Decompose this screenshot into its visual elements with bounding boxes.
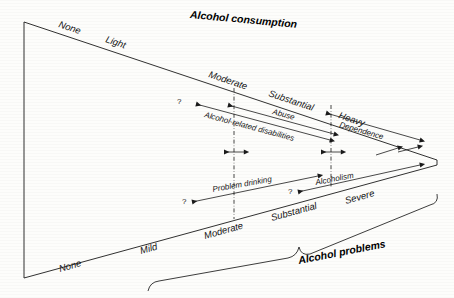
consumption-label-none: None (57, 18, 82, 36)
diagram-canvas: Alcohol consumption None Light Moderate … (0, 0, 454, 298)
problems-label-none: None (58, 257, 83, 274)
span-dependence: Dependence (326, 113, 420, 142)
uncertainty-mark-disabilities: ? (177, 97, 182, 106)
span-problem-drinking: Problem drinking ? (182, 175, 318, 206)
uncertainty-mark-alcoholism: ? (288, 187, 293, 196)
problems-label-mild: Mild (139, 240, 159, 255)
band-label-alcoholism: Alcoholism (314, 171, 355, 187)
divider-lines (234, 88, 331, 219)
problems-scale-labels: None Mild Moderate Substantial Severe (58, 187, 376, 274)
alcohol-wedge-diagram: Alcohol consumption None Light Moderate … (0, 0, 454, 298)
apex-arrow-upper (376, 148, 398, 155)
problems-label-substantial: Substantial (270, 200, 319, 223)
consumption-label-moderate: Moderate (207, 68, 249, 91)
band-label-abuse: Abuse (271, 107, 297, 122)
problems-label-severe: Severe (344, 187, 376, 206)
band-label-problem-drinking: Problem drinking (212, 175, 273, 194)
span-alcoholism: Alcoholism ? (288, 165, 420, 196)
consumption-label-light: Light (104, 33, 127, 50)
top-title-group: Alcohol consumption (189, 8, 298, 30)
uncertainty-mark-problem-drinking: ? (182, 197, 187, 206)
apex-arrows (376, 147, 418, 155)
top-title: Alcohol consumption (189, 8, 298, 30)
problems-label-moderate: Moderate (203, 220, 245, 241)
